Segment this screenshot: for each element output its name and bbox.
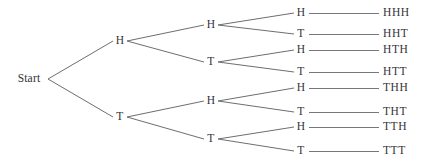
outcome-label-out-htt: HTT	[383, 66, 407, 78]
tree-node-level3-htt: T	[297, 66, 304, 78]
level2-to-level3-edge-hht	[218, 25, 294, 34]
level2-to-level3-edge-ttt	[218, 139, 294, 151]
tree-node-level3-hht: T	[297, 28, 304, 40]
tree-node-level3-hth: H	[297, 44, 306, 56]
outcome-label-out-thh: THH	[383, 82, 408, 94]
level2-to-level3-edge-tht	[218, 101, 294, 112]
tree-node-level3-thh: H	[297, 82, 306, 94]
outcome-label-out-hht: HHT	[383, 28, 408, 40]
outcome-label-out-tht: THT	[383, 106, 407, 118]
level1-to-level2-edge-tt	[127, 117, 204, 139]
level2-edges-group	[218, 13, 294, 151]
root-edges-group	[48, 41, 113, 117]
coin-flip-tree-diagram: StartHTHTHTHTHTHTHTHHHHHTHTHHTTTHHTHTTTH…	[0, 0, 433, 165]
tree-node-level1-h: H	[116, 35, 125, 47]
tree-node-start: Start	[18, 73, 41, 85]
level1-to-level2-edge-th	[127, 101, 204, 117]
tree-node-level2-tt: T	[207, 133, 214, 145]
tree-node-level2-hh: H	[207, 19, 216, 31]
tree-node-level3-tht: T	[297, 106, 304, 118]
tree-node-level3-hhh: H	[297, 7, 306, 19]
level2-to-level3-edge-tth	[218, 127, 294, 139]
tree-node-level3-ttt: T	[297, 145, 304, 157]
outcome-label-out-hhh: HHH	[383, 7, 410, 19]
level2-to-level3-edge-hth	[218, 50, 294, 62]
tree-node-level1-t: T	[116, 111, 123, 123]
level1-to-level2-edge-hh	[127, 25, 204, 41]
root-branch-h-0	[48, 41, 113, 79]
level2-to-level3-edge-htt	[218, 62, 294, 72]
tree-node-level3-tth: H	[297, 121, 306, 133]
outcome-label-out-ttt: TTT	[383, 145, 406, 157]
tree-node-level2-th: H	[207, 95, 216, 107]
level2-to-level3-edge-hhh	[218, 13, 294, 25]
level2-to-level3-edge-thh	[218, 88, 294, 101]
outcome-edges-group	[309, 13, 379, 151]
level1-edges-group	[127, 25, 204, 139]
level1-to-level2-edge-ht	[127, 41, 204, 62]
root-branch-t-1	[48, 79, 113, 117]
tree-node-level2-ht: T	[207, 56, 214, 68]
tree-connector-lines	[0, 0, 433, 165]
outcome-label-out-hth: HTH	[383, 44, 408, 56]
outcome-label-out-tth: TTH	[383, 121, 407, 133]
